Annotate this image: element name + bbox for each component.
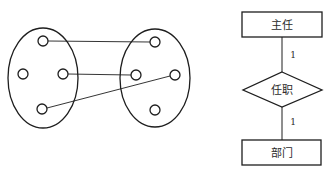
left-element-circle [38,36,48,46]
entity-bottom-label: 部门 [271,146,293,160]
diagram-canvas: 主任 任职 1 1 部门 [0,0,334,175]
mapping-diagram [8,28,190,128]
left-element-circle [18,69,28,79]
mapping-line-a4-b3 [47,76,170,108]
left-element-circle [58,69,68,79]
er-diagram: 主任 任职 1 1 部门 [242,12,322,165]
right-element-circle [150,105,160,115]
relationship-label: 任职 [271,84,293,97]
left-set-ellipse [8,28,78,128]
right-element-circle [131,70,141,80]
cardinality-bottom: 1 [290,117,296,127]
right-element-circle [150,37,160,47]
entity-top-label: 主任 [271,19,293,32]
mapping-line-a1-b1 [48,41,150,42]
right-element-circle [170,70,180,80]
left-element-circle [37,104,47,114]
cardinality-top: 1 [290,50,296,60]
